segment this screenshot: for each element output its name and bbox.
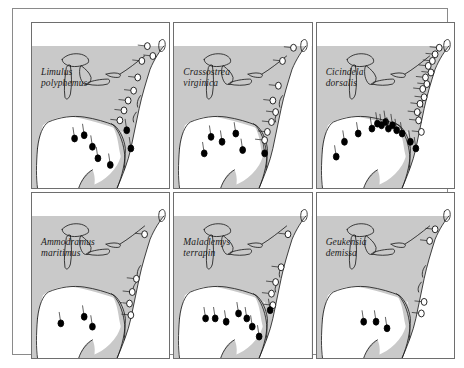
open-locality-marker: [417, 100, 423, 107]
open-locality-marker: [415, 117, 421, 124]
open-locality-marker: [418, 310, 424, 317]
open-locality-marker: [414, 109, 420, 116]
filled-locality-marker: [107, 161, 113, 168]
land-layer: [317, 46, 454, 188]
filled-locality-marker: [220, 138, 226, 145]
filled-locality-marker: [393, 127, 399, 134]
open-locality-marker: [421, 94, 427, 101]
open-locality-marker: [276, 82, 282, 89]
filled-locality-marker: [355, 130, 361, 137]
map-graphic: [317, 23, 454, 188]
open-locality-marker: [426, 237, 432, 244]
panel-crassostrea-virginica: Crassostreavirginica: [173, 22, 312, 189]
open-locality-marker: [270, 97, 276, 104]
filled-locality-marker: [124, 127, 130, 134]
filled-locality-marker: [81, 132, 87, 139]
filled-locality-marker: [399, 130, 405, 137]
open-locality-marker: [135, 74, 141, 81]
filled-locality-marker: [90, 323, 96, 330]
map-graphic: [317, 193, 454, 358]
open-locality-marker: [269, 119, 275, 126]
open-locality-marker: [432, 226, 438, 233]
open-locality-marker: [139, 57, 145, 64]
filled-locality-marker: [213, 315, 219, 322]
map-graphic: [32, 23, 169, 188]
open-locality-marker: [273, 109, 279, 116]
filled-locality-marker: [360, 318, 366, 325]
land-layer: [32, 46, 169, 188]
open-locality-marker: [420, 86, 426, 93]
filled-locality-marker: [369, 125, 375, 132]
filled-locality-marker: [244, 315, 250, 322]
filled-locality-marker: [268, 307, 274, 314]
open-locality-marker: [117, 117, 123, 124]
open-locality-marker: [150, 53, 156, 60]
filled-locality-marker: [384, 325, 390, 332]
map-graphic: [174, 193, 311, 358]
filled-locality-marker: [203, 315, 209, 322]
open-locality-marker: [265, 128, 271, 135]
open-locality-marker: [262, 137, 268, 144]
land-layer: [317, 216, 454, 358]
filled-locality-marker: [202, 150, 208, 157]
open-locality-marker: [280, 57, 286, 64]
filled-locality-marker: [407, 138, 413, 145]
filled-locality-marker: [413, 145, 419, 152]
panel-limulus-polyphemus: Limuluspolyphemus: [31, 22, 170, 189]
land-layer: [174, 216, 311, 358]
open-locality-marker: [425, 62, 431, 69]
filled-locality-marker: [81, 313, 87, 320]
open-locality-marker: [279, 264, 285, 271]
open-locality-marker: [436, 44, 442, 51]
filled-locality-marker: [373, 318, 379, 325]
open-locality-marker: [421, 298, 427, 305]
filled-locality-marker: [257, 333, 263, 340]
filled-locality-marker: [240, 147, 246, 154]
filled-locality-marker: [236, 310, 242, 317]
map-graphic: [174, 23, 311, 188]
filled-locality-marker: [90, 143, 96, 150]
filled-locality-marker: [209, 133, 215, 140]
open-locality-marker: [142, 231, 148, 238]
panel-cicindela-dorsalis: Cicindeladorsalis: [316, 22, 455, 189]
panel-malaclemys-terrapin: Malaclemysterrapin: [173, 192, 312, 359]
open-locality-marker: [125, 97, 131, 104]
filled-locality-marker: [58, 320, 64, 327]
filled-locality-marker: [224, 318, 230, 325]
figure-outer-frame: Limuluspolyphemus: [12, 8, 448, 355]
filled-locality-marker: [128, 145, 134, 152]
open-locality-marker: [418, 128, 424, 135]
open-locality-marker: [291, 44, 297, 51]
filled-locality-marker: [95, 155, 101, 162]
open-locality-marker: [422, 74, 428, 81]
open-locality-marker: [128, 312, 134, 319]
open-locality-marker: [144, 43, 150, 50]
open-locality-marker: [285, 231, 291, 238]
open-locality-marker: [121, 107, 127, 114]
open-locality-marker: [133, 275, 139, 282]
land-layer: [174, 46, 311, 188]
panel-geukensia-demissa: Geukensiademissa: [316, 192, 455, 359]
open-locality-marker: [129, 289, 135, 296]
open-locality-marker: [432, 51, 438, 58]
filled-locality-marker: [233, 130, 239, 137]
map-graphic: [32, 193, 169, 358]
filled-locality-marker: [341, 138, 347, 145]
panel-ammodramus-maritimus: Ammodramusmaritimus: [31, 192, 170, 359]
map-panel-grid: Limuluspolyphemus: [31, 22, 455, 359]
filled-locality-marker: [333, 153, 339, 160]
open-locality-marker: [269, 290, 275, 297]
open-locality-marker: [428, 69, 434, 76]
open-locality-marker: [273, 279, 279, 286]
filled-locality-marker: [262, 150, 268, 157]
open-locality-marker: [131, 87, 137, 94]
open-locality-marker: [127, 300, 133, 307]
filled-locality-marker: [250, 323, 256, 330]
land-layer: [32, 216, 169, 358]
filled-locality-marker: [72, 135, 78, 142]
distribution-maps-figure: Limuluspolyphemus: [0, 0, 464, 368]
